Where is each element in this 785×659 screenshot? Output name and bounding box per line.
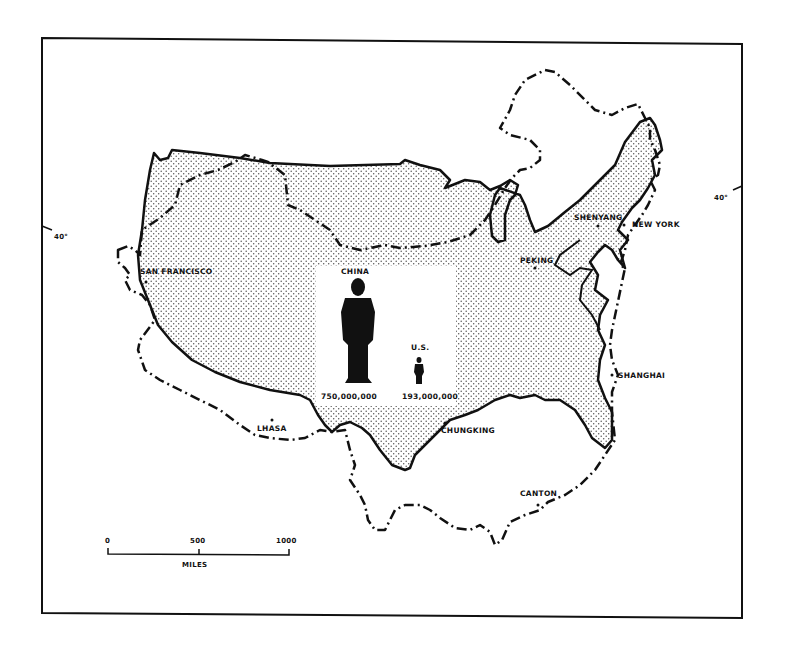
city-label-peking: PEKING xyxy=(520,256,553,265)
city-dot-peking xyxy=(534,267,537,270)
city-dot-san-francisco xyxy=(145,281,148,284)
latitude-label-left: 40° xyxy=(54,233,68,241)
city-dot-chungking xyxy=(444,422,447,425)
population-panel xyxy=(316,266,456,406)
city-dot-shenyang xyxy=(597,225,600,228)
city-label-lhasa: LHASA xyxy=(257,424,287,433)
china-figure-label: CHINA xyxy=(341,267,369,276)
scale-tick-1000: 1000 xyxy=(276,537,297,545)
map-canvas xyxy=(0,0,785,659)
city-label-canton: CANTON xyxy=(520,489,557,498)
us-population-value: 193,000,000 xyxy=(402,392,458,401)
city-dot-shanghai xyxy=(611,374,614,377)
scale-tick-500: 500 xyxy=(190,537,206,545)
latitude-label-right: 40° xyxy=(714,194,728,202)
scale-tick-0: 0 xyxy=(105,537,110,545)
city-label-new-york: NEW YORK xyxy=(632,220,680,229)
scale-bar xyxy=(108,548,289,555)
city-label-shenyang: SHENYANG xyxy=(574,213,622,222)
latitude-tick-right xyxy=(733,186,742,190)
latitude-tick-left xyxy=(42,226,52,230)
us-figure-label: U.S. xyxy=(411,343,429,352)
city-dot-lhasa xyxy=(271,419,274,422)
china-population-value: 750,000,000 xyxy=(321,392,377,401)
city-label-chungking: CHUNGKING xyxy=(441,426,495,435)
city-label-shanghai: SHANGHAI xyxy=(618,371,665,380)
scale-unit-label: MILES xyxy=(182,561,207,569)
city-dot-new-york xyxy=(623,224,626,227)
city-dot-canton xyxy=(537,504,540,507)
city-label-san-francisco: SAN FRANCISCO xyxy=(140,267,213,276)
